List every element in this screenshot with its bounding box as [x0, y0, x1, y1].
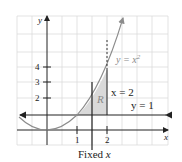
- fixed-caption-var: x: [106, 148, 111, 160]
- y-axis-label: y: [38, 16, 42, 25]
- curve-label-exponent: 2: [137, 53, 141, 61]
- y-tick-2: 2: [35, 94, 40, 103]
- fixed-x-caption: Fixed x: [78, 149, 111, 160]
- x-axis-label: x: [164, 133, 168, 142]
- curve-label-text: y = x: [116, 54, 137, 65]
- fixed-caption-text: Fixed: [78, 148, 106, 160]
- diagram-canvas: [0, 0, 182, 162]
- x-tick-1: 1: [75, 136, 80, 145]
- curve-label: y = x2: [116, 54, 140, 65]
- y-equals-1-label: y = 1: [131, 100, 154, 111]
- y-tick-4: 4: [35, 63, 40, 72]
- region-label: R: [97, 94, 104, 105]
- y-tick-3: 3: [35, 78, 40, 87]
- x-tick-2: 2: [105, 136, 110, 145]
- x-equals-2-label: x = 2: [111, 87, 134, 98]
